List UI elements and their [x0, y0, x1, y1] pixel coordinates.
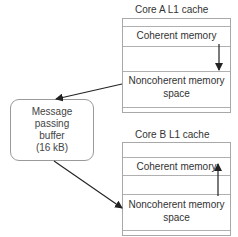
arrows-layer: [0, 0, 238, 237]
buffer-to-core-b-arrow: [54, 161, 122, 208]
core-a-to-buffer-arrow: [56, 84, 122, 99]
